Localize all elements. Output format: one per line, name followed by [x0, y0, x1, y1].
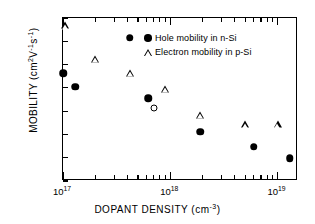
- x-tick-b-8e+18: [267, 175, 268, 179]
- filled-circle-marker: [59, 70, 67, 78]
- x-tick-t-7e+18: [260, 18, 261, 22]
- legend-marker: [141, 49, 155, 56]
- x-tick-b-2e+18: [202, 175, 203, 179]
- y-tick-400: [63, 87, 68, 88]
- x-tick-b-5e+17: [137, 175, 138, 179]
- x-tick-base: 10: [268, 186, 279, 197]
- y-axis-title-text: MOBILITY (cm: [28, 62, 39, 133]
- x-tick-t-1e+19: [277, 18, 278, 25]
- x-axis-title-text: DOPANT DENSITY (cm: [94, 204, 209, 215]
- x-tick-label-1e18: 1018: [160, 186, 178, 197]
- data-point: [286, 155, 294, 163]
- x-tick-label-1e19: 1019: [268, 186, 286, 197]
- x-tick-t-3e+18: [221, 18, 222, 22]
- x-tick-b-6e+17: [146, 175, 147, 179]
- data-point: [150, 105, 157, 112]
- filled-circle-marker: [144, 34, 152, 42]
- x-tick-b-3e+18: [221, 175, 222, 179]
- x-tick-t-4e+18: [234, 18, 235, 22]
- chart-legend: Hole mobility in n-SiElectron mobility i…: [141, 31, 252, 59]
- filled-circle-marker: [196, 128, 204, 136]
- x-tick-t-6e+17: [146, 18, 147, 22]
- data-point: [241, 121, 249, 128]
- data-point: [126, 70, 134, 77]
- y-tick-100: [63, 157, 68, 158]
- data-point: [274, 121, 282, 128]
- x-axis-title-sup: -3: [210, 203, 217, 210]
- y-tick-700: [63, 17, 68, 18]
- open-triangle-marker: [161, 85, 169, 92]
- legend-marker: [141, 34, 155, 42]
- data-point: [126, 34, 134, 42]
- y-tick-600: [63, 41, 68, 42]
- data-point: [196, 111, 204, 118]
- filled-circle-marker: [126, 34, 134, 42]
- x-tick-b-7e+18: [260, 175, 261, 179]
- legend-entry: Hole mobility in n-Si: [141, 31, 252, 45]
- x-tick-b-9e+18: [272, 175, 273, 179]
- x-tick-b-1e+19: [277, 172, 278, 179]
- x-tick-b-7e+17: [153, 175, 154, 179]
- y-axis-title-end: ): [28, 28, 39, 32]
- y-axis-title-sup-3: -1: [27, 31, 34, 38]
- x-tick-b-8e+17: [159, 175, 160, 179]
- open-triangle-marker: [126, 70, 134, 77]
- open-circle-marker: [150, 105, 157, 112]
- x-tick-base: 10: [160, 186, 171, 197]
- open-triangle-marker: [144, 49, 152, 56]
- y-axis-title-mid-2: s: [28, 38, 39, 43]
- open-triangle-marker: [274, 121, 282, 128]
- x-tick-t-3e+17: [114, 18, 115, 22]
- y-tick-200: [63, 134, 68, 135]
- chart-figure: MOBILITY (cm2V-1s-1) DOPANT DENSITY (cm-…: [0, 0, 315, 224]
- x-tick-t-7e+17: [153, 18, 154, 22]
- plot-area: Hole mobility in n-SiElectron mobility i…: [62, 17, 297, 180]
- legend-entry: Electron mobility in p-Si: [141, 45, 252, 59]
- x-tick-b-4e+17: [127, 175, 128, 179]
- x-tick-b-1e+18: [170, 172, 171, 179]
- x-tick-exp: 19: [278, 185, 286, 192]
- x-tick-t-2e+18: [202, 18, 203, 22]
- x-tick-t-5e+18: [245, 18, 246, 22]
- x-tick-t-8e+18: [267, 18, 268, 22]
- data-point: [196, 128, 204, 136]
- data-point: [71, 83, 79, 91]
- legend-label: Electron mobility in p-Si: [155, 45, 252, 59]
- data-point: [144, 95, 152, 103]
- y-tick-300: [63, 111, 68, 112]
- x-tick-t-6e+18: [253, 18, 254, 22]
- x-axis-title: DOPANT DENSITY (cm-3): [0, 203, 315, 215]
- x-tick-t-2e+17: [95, 18, 96, 22]
- y-axis-title-mid: V: [28, 51, 39, 58]
- legend-label: Hole mobility in n-Si: [155, 31, 237, 45]
- x-tick-b-9e+17: [165, 175, 166, 179]
- y-axis-title-sup-2: -1: [27, 44, 34, 51]
- open-triangle-marker: [196, 111, 204, 118]
- open-triangle-marker: [61, 22, 69, 29]
- y-axis-title: MOBILITY (cm2V-1s-1): [27, 0, 39, 165]
- y-tick-0: [63, 180, 68, 181]
- x-tick-exp: 18: [171, 185, 179, 192]
- x-tick-t-8e+17: [159, 18, 160, 22]
- x-tick-t-1e+18: [170, 18, 171, 25]
- x-tick-exp: 17: [64, 185, 72, 192]
- x-tick-b-1e+17: [62, 172, 63, 179]
- open-triangle-marker: [91, 55, 99, 62]
- x-tick-b-5e+18: [245, 175, 246, 179]
- y-axis-title-sup-1: 2: [27, 58, 34, 62]
- filled-circle-marker: [144, 95, 152, 103]
- y-tick-500: [63, 64, 68, 65]
- x-tick-base: 10: [53, 186, 64, 197]
- x-tick-t-5e+17: [137, 18, 138, 22]
- data-point: [61, 22, 69, 29]
- x-tick-b-4e+18: [234, 175, 235, 179]
- x-axis-title-end: ): [217, 204, 221, 215]
- x-tick-t-4e+17: [127, 18, 128, 22]
- data-point: [161, 85, 169, 92]
- data-point: [91, 55, 99, 62]
- filled-circle-marker: [250, 143, 258, 151]
- data-point: [250, 143, 258, 151]
- data-point: [59, 70, 67, 78]
- x-tick-t-9e+18: [272, 18, 273, 22]
- x-tick-t-9e+17: [165, 18, 166, 22]
